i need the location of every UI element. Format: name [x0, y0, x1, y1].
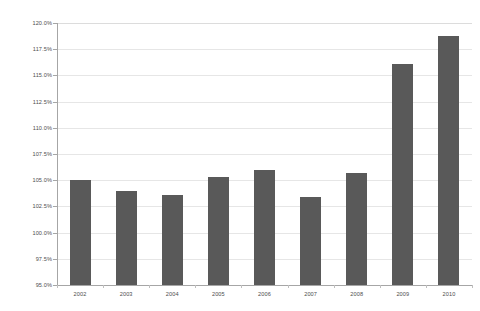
x-axis-tick-mark: [57, 285, 58, 288]
x-axis-tick-mark: [380, 285, 381, 288]
x-axis-tick-label: 2009: [383, 291, 423, 297]
x-axis-tick-label: 2002: [60, 291, 100, 297]
x-axis-tick-label: 2008: [337, 291, 377, 297]
y-axis-tick-mark: [53, 180, 57, 181]
x-axis-tick-label: 2005: [198, 291, 238, 297]
x-axis-tick-mark: [426, 285, 427, 288]
y-axis-line: [57, 23, 58, 286]
x-axis-tick-mark: [195, 285, 196, 288]
y-axis-tick-label: 120.0%: [32, 20, 52, 26]
y-axis-tick-mark: [53, 154, 57, 155]
plot-area: [57, 23, 472, 285]
bar[interactable]: [70, 180, 91, 285]
y-axis-tick-mark: [53, 128, 57, 129]
x-axis-tick-mark: [241, 285, 242, 288]
y-axis-tick-label: 97.5%: [36, 256, 52, 262]
bar[interactable]: [300, 197, 321, 285]
x-axis-tick-mark: [334, 285, 335, 288]
y-axis-tick-mark: [53, 233, 57, 234]
x-axis-tick-label: 2004: [152, 291, 192, 297]
y-axis-tick-mark: [53, 75, 57, 76]
y-axis-tick-mark: [53, 259, 57, 260]
y-axis-tick-label: 110.0%: [33, 125, 52, 131]
bar[interactable]: [346, 173, 367, 285]
bar-chart: 95.0%97.5%100.0%102.5%105.0%107.5%110.0%…: [0, 0, 480, 311]
bar[interactable]: [438, 36, 459, 285]
x-axis-tick-mark: [149, 285, 150, 288]
x-axis-tick-label: 2007: [291, 291, 331, 297]
y-axis-tick-label: 105.0%: [32, 177, 52, 183]
bar[interactable]: [254, 170, 275, 285]
x-axis-line: [57, 285, 473, 286]
bar[interactable]: [116, 191, 137, 285]
y-axis-tick-label: 117.5%: [33, 46, 52, 52]
y-axis-tick-mark: [53, 49, 57, 50]
x-axis-tick-label: 2006: [245, 291, 285, 297]
y-axis-tick-label: 95.0%: [36, 282, 52, 288]
x-axis-tick-mark: [472, 285, 473, 288]
bar[interactable]: [208, 177, 229, 285]
y-axis-tick-mark: [53, 206, 57, 207]
y-axis-tick-label: 115.0%: [33, 72, 52, 78]
y-axis-tick-label: 107.5%: [32, 151, 52, 157]
y-axis-tick-label: 100.0%: [32, 230, 52, 236]
y-axis-tick-label: 102.5%: [32, 203, 52, 209]
x-axis-tick-label: 2010: [429, 291, 469, 297]
y-axis-tick-label: 112.5%: [33, 99, 52, 105]
y-axis-tick-mark: [53, 102, 57, 103]
y-axis-tick-mark: [53, 23, 57, 24]
bar[interactable]: [392, 64, 413, 285]
gridline: [57, 49, 472, 50]
bar[interactable]: [162, 195, 183, 285]
gridline: [57, 23, 472, 24]
x-axis-tick-mark: [288, 285, 289, 288]
x-axis-tick-mark: [103, 285, 104, 288]
x-axis-tick-label: 2003: [106, 291, 146, 297]
